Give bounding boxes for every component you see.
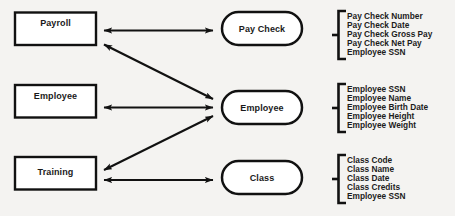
attribute-item: Employee SSN <box>347 192 406 201</box>
process-training-label: Training <box>15 167 96 177</box>
attribute-item: Employee SSN <box>347 48 432 57</box>
connector-training-employee-store[interactable] <box>104 116 213 170</box>
employee-attribute-list: Employee SSN Employee Name Employee Birt… <box>347 85 428 130</box>
bracket-employee <box>332 84 346 132</box>
process-employee-label: Employee <box>15 91 96 101</box>
bracket-paycheck <box>332 11 346 59</box>
datastore-paycheck-label: Pay Check <box>222 24 302 34</box>
paycheck-attribute-list: Pay Check Number Pay Check Date Pay Chec… <box>347 12 432 57</box>
er-diagram-canvas: Payroll Employee Training Pay Check Empl… <box>0 0 455 216</box>
bracket-class <box>332 155 346 203</box>
class-attribute-list: Class Code Class Name Class Date Class C… <box>347 156 406 201</box>
attribute-item: Employee Weight <box>347 121 428 130</box>
connector-payroll-employee-store[interactable] <box>104 45 213 100</box>
datastore-class-label: Class <box>222 173 302 183</box>
datastore-employee-label: Employee <box>222 103 302 113</box>
process-payroll-label: Payroll <box>15 18 96 28</box>
